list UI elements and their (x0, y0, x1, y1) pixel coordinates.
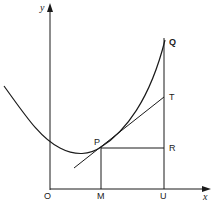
point-label-t: T (169, 92, 175, 102)
point-label-r: R (169, 143, 176, 153)
tangent-diagram: y x O Q T R P M U (0, 0, 212, 202)
point-label-p: P (94, 137, 100, 147)
point-label-q: Q (169, 37, 176, 47)
curve (4, 40, 165, 154)
origin-label: O (44, 191, 51, 201)
y-axis-label: y (39, 2, 45, 13)
x-axis-label: x (202, 191, 208, 202)
point-label-u: U (160, 191, 167, 201)
point-label-m: M (97, 191, 105, 201)
tangent-line (74, 97, 164, 168)
y-axis-arrow-icon (47, 3, 53, 12)
